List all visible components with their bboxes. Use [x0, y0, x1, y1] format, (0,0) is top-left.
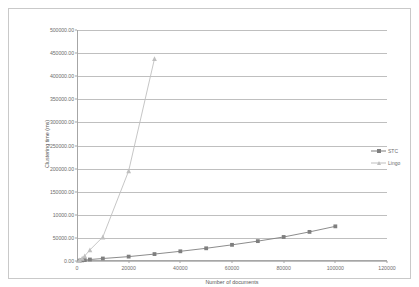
x-tick-label: 80000: [276, 265, 290, 271]
y-tick-label: 150000.00: [50, 189, 74, 195]
legend-item-lingo[interactable]: Lingo: [371, 157, 415, 169]
chart-legend: STCLingo: [371, 145, 415, 169]
data-point-marker: [333, 224, 337, 228]
data-point-marker: [101, 257, 105, 261]
y-tick-label: 200000.00: [50, 166, 74, 172]
legend-label: STC: [386, 148, 398, 154]
data-point-marker: [178, 249, 182, 253]
x-tick-label: 120000: [378, 265, 395, 271]
chart-frame: Clustering time (ms) Number of documents…: [8, 8, 411, 279]
data-point-marker: [204, 246, 208, 250]
y-tick-label: 0.00: [64, 258, 74, 264]
x-tick-label: 20000: [121, 265, 135, 271]
y-tick-label: 50000.00: [53, 235, 74, 241]
x-tick-label: 0: [76, 265, 79, 271]
data-point-marker: [127, 255, 131, 259]
y-tick-label: 300000.00: [50, 119, 74, 125]
data-point-marker: [153, 252, 157, 256]
data-point-marker: [152, 56, 157, 61]
x-tick-label: 60000: [225, 265, 239, 271]
y-tick-label: 250000.00: [50, 143, 74, 149]
y-tick-label: 450000.00: [50, 50, 74, 56]
legend-swatch-icon: [371, 159, 386, 167]
series-plot: [77, 30, 387, 261]
data-point-marker: [256, 239, 260, 243]
series-line: [80, 59, 155, 260]
data-point-marker: [308, 230, 312, 234]
x-tick-mark: [283, 261, 284, 263]
legend-item-stc[interactable]: STC: [371, 145, 415, 157]
chart-figure: Clustering time (ms) Number of documents…: [0, 0, 419, 287]
x-axis-title: Number of documents: [77, 279, 387, 285]
series-line: [80, 226, 336, 260]
x-tick-mark: [232, 261, 233, 263]
data-point-marker: [100, 235, 105, 240]
data-point-marker: [88, 258, 92, 262]
y-tick-label: 10000.00: [53, 212, 74, 218]
x-tick-mark: [387, 261, 388, 263]
data-point-marker: [230, 243, 234, 247]
data-point-marker: [282, 235, 286, 239]
x-tick-mark: [180, 261, 181, 263]
data-point-marker: [126, 169, 131, 174]
legend-swatch-icon: [371, 147, 386, 155]
x-tick-mark: [128, 261, 129, 263]
y-tick-label: 400000.00: [50, 73, 74, 79]
series-stc: [78, 224, 338, 262]
series-lingo: [77, 56, 157, 262]
x-tick-mark: [335, 261, 336, 263]
legend-label: Lingo: [386, 160, 400, 166]
y-tick-label: 500000.00: [50, 27, 74, 33]
x-tick-label: 40000: [173, 265, 187, 271]
plot-area: 0.0050000.0010000.00150000.00200000.0025…: [77, 30, 387, 261]
y-tick-label: 350000.00: [50, 96, 74, 102]
x-tick-label: 100000: [327, 265, 344, 271]
